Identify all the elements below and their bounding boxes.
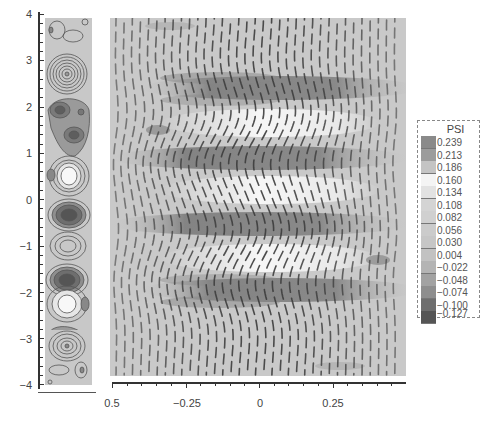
x-minor-tick — [377, 383, 378, 386]
y-minor-tick — [39, 329, 43, 330]
x-minor-tick — [127, 383, 128, 386]
legend-value: 0.213 — [437, 149, 462, 162]
legend-item: 0.056 — [421, 224, 479, 237]
legend-swatch — [421, 311, 436, 324]
legend-value: −0.048 — [437, 274, 468, 287]
legend-swatch — [421, 286, 436, 299]
legend-item: 0.004 — [421, 249, 479, 262]
y-minor-tick — [39, 88, 43, 89]
legend-swatch — [421, 299, 436, 312]
x-major-tick — [112, 383, 113, 388]
legend-swatch — [421, 236, 436, 249]
legend-swatch — [421, 186, 436, 199]
legend-swatch — [421, 149, 436, 162]
legend-value: −0.022 — [437, 261, 468, 274]
legend-title: PSI — [418, 123, 479, 135]
y-minor-tick — [39, 190, 43, 191]
legend-value: 0.082 — [437, 211, 462, 224]
legend-value: 0.160 — [437, 174, 462, 187]
legend-value: 0.108 — [437, 199, 462, 212]
legend-swatch — [421, 199, 436, 212]
y-minor-tick — [39, 347, 43, 348]
y-minor-tick — [39, 144, 43, 145]
y-tick-label: −4 — [12, 379, 32, 391]
legend-swatch — [421, 274, 436, 287]
x-tick-label: 0.25 — [313, 397, 353, 409]
y-minor-tick — [39, 227, 43, 228]
y-tick-label: −2 — [12, 287, 32, 299]
x-minor-tick — [288, 383, 289, 386]
y-minor-tick — [39, 320, 43, 321]
y-major-tick — [38, 107, 44, 108]
y-major-tick — [38, 292, 44, 293]
x-minor-tick — [215, 383, 216, 386]
legend-item: −0.022 — [421, 261, 479, 274]
x-tick-label: 0.5 — [92, 397, 132, 409]
legend-item: 0.030 — [421, 236, 479, 249]
y-tick-label: 0 — [12, 194, 32, 206]
legend-item: −0.048 — [421, 274, 479, 287]
y-major-tick — [38, 199, 44, 200]
y-minor-tick — [39, 23, 43, 24]
y-minor-tick — [39, 181, 43, 182]
y-tick-label: 2 — [12, 101, 32, 113]
y-major-tick — [38, 384, 44, 385]
legend-swatch — [421, 136, 436, 149]
y-minor-tick — [39, 162, 43, 163]
left-plot-bottom-axis — [38, 392, 96, 393]
x-minor-tick — [230, 383, 231, 386]
legend-value: 0.030 — [437, 236, 462, 249]
y-minor-tick — [39, 134, 43, 135]
legend-swatch — [421, 224, 436, 237]
y-tick-label: 1 — [12, 147, 32, 159]
x-major-tick — [186, 383, 187, 388]
y-minor-tick — [39, 366, 43, 367]
y-major-tick — [38, 153, 44, 154]
y-tick-label: 4 — [12, 8, 32, 20]
x-minor-tick — [171, 383, 172, 386]
y-minor-tick — [39, 301, 43, 302]
y-major-tick — [38, 246, 44, 247]
y-tick-label: −1 — [12, 240, 32, 252]
y-minor-tick — [39, 79, 43, 80]
legend-item: 0.082 — [421, 211, 479, 224]
left-contour-plot-lower — [45, 330, 92, 385]
y-minor-tick — [39, 171, 43, 172]
y-minor-tick — [39, 70, 43, 71]
x-minor-tick — [274, 383, 275, 386]
legend-value: −0.074 — [437, 286, 468, 299]
legend-value: 0.186 — [437, 161, 462, 174]
x-minor-tick — [156, 383, 157, 386]
y-minor-tick — [39, 116, 43, 117]
y-minor-tick — [39, 375, 43, 376]
y-minor-tick — [39, 310, 43, 311]
y-axis-line — [38, 12, 40, 389]
legend-item: 0.160 — [421, 174, 479, 187]
legend-item: 0.213 — [421, 149, 479, 162]
x-minor-tick — [347, 383, 348, 386]
y-minor-tick — [39, 218, 43, 219]
psi-legend: PSI 0.239 0.213 0.186 0.160 0.134 0.108 … — [417, 120, 480, 318]
x-minor-tick — [362, 383, 363, 386]
y-minor-tick — [39, 51, 43, 52]
y-minor-tick — [39, 236, 43, 237]
y-minor-tick — [39, 357, 43, 358]
legend-value: 0.134 — [437, 186, 462, 199]
y-major-tick — [38, 338, 44, 339]
legend-item: 0.134 — [421, 186, 479, 199]
y-major-tick — [38, 60, 44, 61]
y-major-tick — [38, 14, 44, 15]
x-tick-label: −0.25 — [167, 397, 207, 409]
legend-swatch — [421, 174, 436, 187]
legend-swatch — [421, 261, 436, 274]
y-tick-label: −3 — [12, 333, 32, 345]
legend-item: 0.186 — [421, 161, 479, 174]
y-minor-tick — [39, 125, 43, 126]
x-major-tick — [333, 383, 334, 388]
legend-item: −0.074 — [421, 286, 479, 299]
main-contour-plot — [110, 18, 406, 376]
legend-item: −0.127 — [421, 311, 479, 317]
legend-value: 0.004 — [437, 249, 462, 262]
y-minor-tick — [39, 33, 43, 34]
x-minor-tick — [391, 383, 392, 386]
